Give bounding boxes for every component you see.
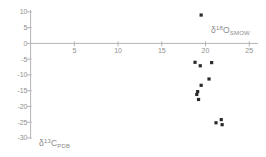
data-point [207, 77, 210, 80]
y-axis-tick-label: -20 [17, 103, 27, 110]
y-axis-tick-label: -10 [17, 71, 27, 78]
y-axis-tick-label: -30 [17, 134, 27, 141]
data-point [210, 61, 213, 64]
y-axis-tick-label: 5 [24, 24, 28, 31]
x-axis-label: δ18OSMOW [211, 26, 250, 35]
y-axis-label-standard-subscript: PDB [57, 143, 70, 149]
x-axis-tick-label: 5 [72, 47, 76, 54]
scatter-plot-canvas: 5101520251050-5-10-15-20-25-30 [0, 0, 266, 157]
isotope-scatter-chart: 5101520251050-5-10-15-20-25-30 δ18OSMOW … [0, 0, 266, 157]
data-point [221, 123, 224, 126]
data-point [214, 121, 217, 124]
y-axis-label: δ13CPDB [39, 139, 70, 148]
x-axis-label-element: O [223, 25, 230, 35]
data-point [200, 13, 203, 16]
y-axis-tick-label: -15 [17, 87, 27, 94]
x-axis-tick-label: 20 [202, 47, 210, 54]
data-point [196, 90, 199, 93]
data-point [197, 98, 200, 101]
x-axis-tick-label: 25 [245, 47, 253, 54]
x-axis-label-standard-subscript: SMOW [230, 30, 250, 36]
x-axis-label-isotope-superscript: 18 [216, 25, 223, 31]
y-axis-tick-label: 0 [24, 40, 28, 47]
data-point [195, 93, 198, 96]
y-axis-tick-label: -25 [17, 119, 27, 126]
y-axis-label-isotope-superscript: 13 [44, 138, 51, 144]
x-axis-tick-label: 10 [114, 47, 122, 54]
data-point [199, 64, 202, 67]
y-axis-tick-label: 10 [20, 8, 28, 15]
data-point [220, 118, 223, 121]
data-point [200, 84, 203, 87]
data-point [193, 61, 196, 64]
x-axis-tick-label: 15 [158, 47, 166, 54]
y-axis-tick-label: -5 [21, 56, 27, 63]
